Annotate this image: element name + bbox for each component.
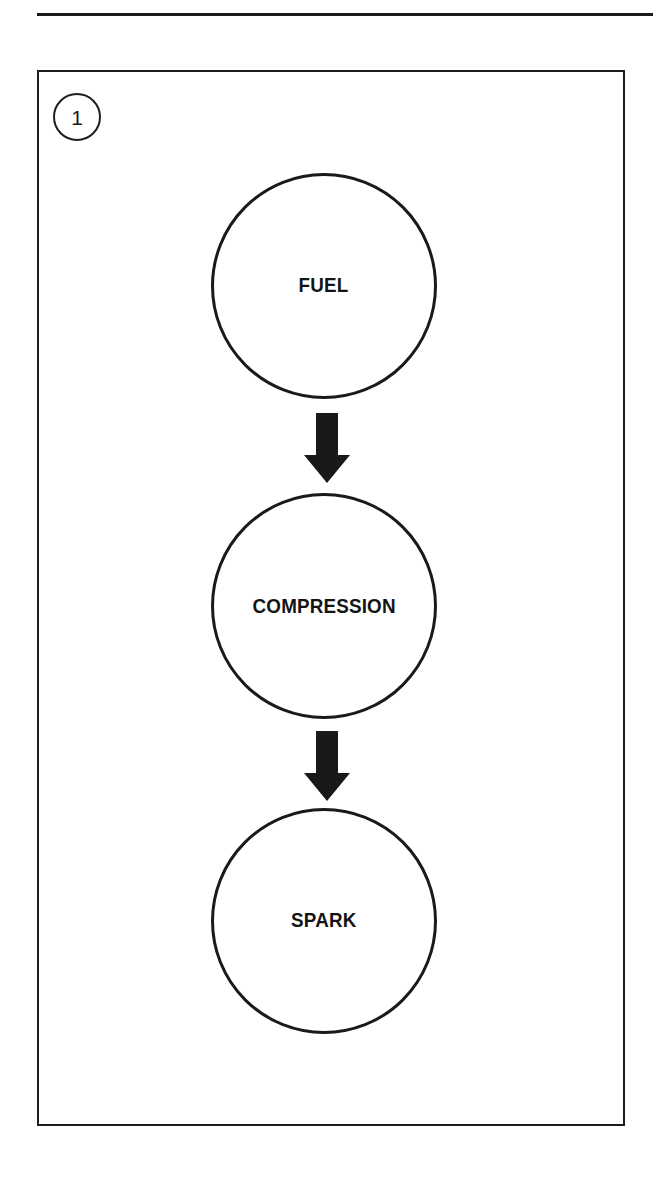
figure-number-badge: 1 — [53, 93, 101, 141]
node-spark: SPARK — [211, 808, 437, 1034]
arrow-down-icon-compression-to-spark — [303, 731, 351, 801]
node-spark-label: SPARK — [291, 910, 356, 930]
node-fuel: FUEL — [211, 173, 437, 399]
arrow-down-icon-fuel-to-compression — [303, 413, 351, 483]
node-compression: COMPRESSION — [211, 493, 437, 719]
horizontal-divider — [37, 13, 653, 16]
figure-page: 1 FUEL COMPRESSION SPARK — [0, 0, 653, 1181]
node-fuel-label: FUEL — [299, 275, 349, 295]
node-compression-label: COMPRESSION — [252, 596, 395, 616]
figure-number-label: 1 — [71, 107, 83, 128]
